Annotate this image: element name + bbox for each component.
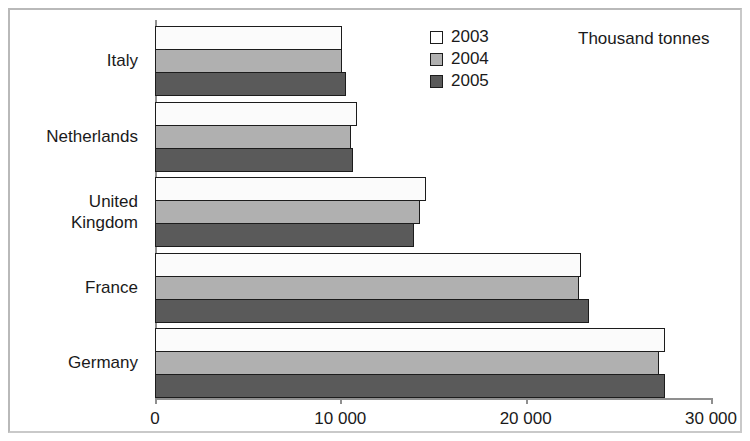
legend-item-2004: 2004 — [430, 48, 489, 70]
legend-swatch-2005-icon — [430, 75, 443, 88]
bar-group — [155, 177, 711, 247]
legend-label-2005: 2005 — [451, 71, 489, 91]
category-label-france: France — [0, 277, 138, 298]
legend-swatch-2003-icon — [430, 31, 443, 44]
category-label-netherlands: Netherlands — [0, 126, 138, 147]
x-tick-label: 20 000 — [500, 408, 552, 429]
bar-2003-netherlands — [155, 102, 357, 126]
bar-2004-netherlands — [155, 125, 351, 149]
x-tick-mark — [340, 398, 342, 404]
legend-item-2005: 2005 — [430, 70, 489, 92]
bar-2003-france — [155, 253, 581, 277]
bar-2005-france — [155, 299, 589, 323]
x-axis-line — [155, 398, 711, 400]
bar-2005-united-kingdom — [155, 223, 414, 247]
category-axis-labels: Italy Netherlands United Kingdom France … — [0, 20, 148, 398]
bar-2003-italy — [155, 26, 342, 50]
bar-2003-germany — [155, 328, 665, 352]
x-tick-mark — [526, 398, 528, 404]
x-tick-mark — [155, 398, 157, 404]
bar-group — [155, 328, 711, 398]
legend-label-2003: 2003 — [451, 27, 489, 47]
legend-swatch-2004-icon — [430, 53, 443, 66]
bar-2004-united-kingdom — [155, 200, 420, 224]
x-tick-mark — [711, 398, 713, 404]
x-tick-label: 30 000 — [685, 408, 737, 429]
bar-2004-france — [155, 276, 579, 300]
bar-2004-italy — [155, 49, 342, 73]
category-label-italy: Italy — [0, 50, 138, 71]
bar-2005-italy — [155, 72, 346, 96]
legend-label-2004: 2004 — [451, 49, 489, 69]
category-label-united-kingdom: United Kingdom — [0, 191, 138, 233]
bar-2004-germany — [155, 351, 659, 375]
bar-2005-netherlands — [155, 148, 353, 172]
bar-2005-germany — [155, 374, 665, 398]
bar-group — [155, 102, 711, 172]
bar-2003-united-kingdom — [155, 177, 426, 201]
bar-chart-figure: Italy Netherlands United Kingdom France … — [0, 0, 750, 441]
x-tick-label: 10 000 — [314, 408, 366, 429]
category-label-germany: Germany — [0, 352, 138, 373]
legend-item-2003: 2003 — [430, 26, 489, 48]
x-tick-label: 0 — [150, 408, 159, 429]
chart-legend: 2003 2004 2005 — [430, 26, 489, 92]
bar-group — [155, 253, 711, 323]
unit-note: Thousand tonnes — [578, 28, 709, 49]
